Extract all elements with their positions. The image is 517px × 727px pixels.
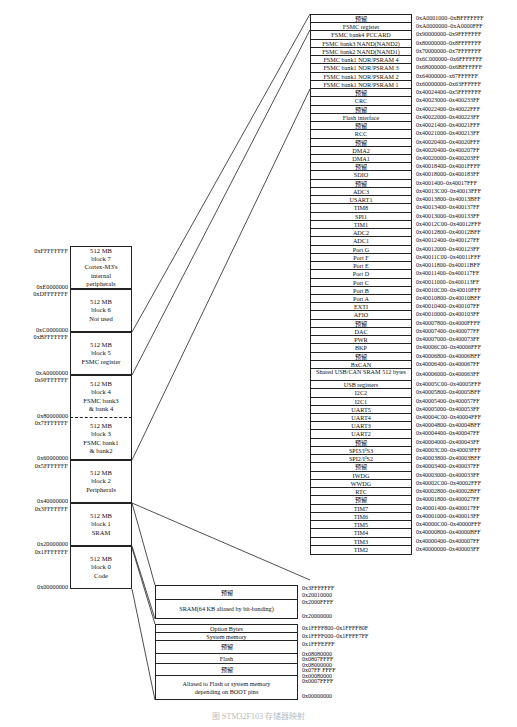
peripheral-address-range: 0x40010400–0x400107FF	[416, 302, 516, 310]
peripheral-map-table: 预留FSMC registerFSMC bank4 PCCARDFSMC ban…	[310, 14, 412, 555]
block5-size: 512 MB	[90, 341, 112, 348]
peripheral-address-range: 0x90000000–0x9FFFFFFF	[416, 30, 516, 38]
peripheral-row: EXTI	[311, 303, 411, 311]
peripheral-address-range: 0x70000000–0x7FFFFFFF	[416, 47, 516, 55]
peripheral-address-range: 0x40012400–0x400127FF	[416, 236, 516, 244]
peripheral-address-range: 0x68000000–0x6BFFFFFF	[416, 63, 516, 71]
block0-top-address: 0x1FFFFFFF	[0, 548, 68, 555]
block5-top-address: 0xBFFFFFFF	[0, 333, 68, 340]
peripheral-address-range: 0x40011800–0x40011BFF	[416, 261, 516, 269]
peripheral-address-range: 0x40001800–0x400027FF	[416, 495, 516, 503]
peripheral-address-range: 0x40024400–0x5FFFFFFF	[416, 88, 516, 96]
code-addr-2: 0x1FFFEFFF	[302, 641, 335, 648]
block3-desc2: & bank2	[90, 447, 113, 454]
peripheral-row: FSMC bank4 PCCARD	[311, 31, 411, 39]
peripheral-address-range: 0x40007800–0x4000FFFF	[416, 319, 516, 327]
block5-desc: FSMC register	[81, 358, 120, 365]
code-aliased-boot: Aliased to Flash or system memory depend…	[156, 676, 297, 699]
block4-bottom-address: 0x80000000	[0, 412, 68, 419]
peripheral-row: UART2	[311, 430, 411, 438]
peripheral-row: TIM6	[311, 513, 411, 521]
block6-label: block 6	[91, 306, 111, 313]
block3-desc: FSMC bank1	[83, 439, 118, 446]
sram-aliased: SRAM(64 KB aliased by bit-banding)	[156, 600, 297, 618]
peripheral-row: Port G	[311, 246, 411, 254]
peripheral-row: FSMC bank2 NAND(NAND1)	[311, 48, 411, 56]
peripheral-row: UART5	[311, 406, 411, 414]
peripheral-address-range: 0x64000000–x67FFFFFF	[416, 72, 516, 80]
peripheral-address-range: 0x40006800–0x40006BFF	[416, 352, 516, 360]
peripheral-address-range: 0x40013C00–0x40013FFF	[416, 187, 516, 195]
peripheral-address-range: 0x40011C00–0x40011FFF	[416, 253, 516, 261]
block4-desc2: & bank 4	[89, 405, 114, 412]
peripheral-address-range: 0x40003C00–0x40003FFF	[416, 446, 516, 454]
block-4: 512 MBblock 4FSMC bank3& bank 4	[70, 375, 132, 418]
peripheral-address-range: 0x40000C00–0x40000FFF	[416, 520, 516, 528]
peripheral-address-range: 0xA0000000–0xA0000FFF	[416, 22, 516, 30]
peripheral-address-range: 0x40004800–0x40004BFF	[416, 421, 516, 429]
peripheral-row: DAC	[311, 328, 411, 336]
peripheral-address-range: 0x40006000–0x400063FF	[416, 368, 516, 380]
peripheral-address-range: 0x40001000–0x400013FF	[416, 512, 516, 520]
block2-desc: Peripherals	[86, 486, 116, 493]
peripheral-address-range: 0x60000000–0x63FFFFFF	[416, 80, 516, 88]
peripheral-address-range: 0x40007400–0x400077FF	[416, 327, 516, 335]
sram-addr-1: 0x20010000	[302, 592, 332, 599]
block-6: 512 MBblock 6Not used	[70, 289, 132, 332]
block1-bottom-address: 0x20000000	[0, 540, 68, 547]
peripheral-address-range: 0x40022000–0x400223FF	[416, 113, 516, 121]
peripheral-row: BxCAN	[311, 361, 411, 369]
peripheral-row: 预留	[311, 89, 411, 97]
peripheral-address-range: 0x40003800–0x40003BFF	[416, 454, 516, 462]
peripheral-row: 预留	[311, 163, 411, 171]
block-7: 512 MBblock 7Cortex-M3'sinternalperipher…	[70, 246, 132, 289]
block7-desc3: peripherals	[86, 280, 115, 287]
peripheral-row: 预留	[311, 463, 411, 471]
sram-addr-2: 0x2000FFFF	[302, 599, 333, 606]
peripheral-row: SPI2/I²S2	[311, 455, 411, 463]
peripheral-address-range: 0x40003400–0x400037FF	[416, 462, 516, 470]
peripheral-row: SDIO	[311, 171, 411, 179]
peripheral-address-range: 0x40002C00–0x40002FFF	[416, 479, 516, 487]
block7-size: 512 MB	[90, 247, 112, 254]
block3-top-address: 0x7FFFFFFF	[0, 419, 68, 426]
block6-top-address: 0xDFFFFFFF	[0, 290, 68, 297]
peripheral-row: Port F	[311, 254, 411, 262]
peripheral-row: AFIO	[311, 311, 411, 319]
code-addr-0: 0x1FFFF800–0x1FFFF80F	[302, 625, 368, 632]
peripheral-row: TIM1	[311, 221, 411, 229]
code-addr-1: 0x1FFFF000–0x1FFFF7FF	[302, 633, 368, 640]
peripheral-row: FSMC bank1 NOR/PSRAM 1	[311, 81, 411, 89]
peripheral-row: Flash interface	[311, 114, 411, 122]
code-flash: Flash	[156, 654, 297, 664]
peripheral-row: TIM8	[311, 204, 411, 212]
peripheral-row: IWDG	[311, 472, 411, 480]
peripheral-row: Port D	[311, 270, 411, 278]
peripheral-row: Port A	[311, 295, 411, 303]
block-2: 512 MBblock 2Peripherals	[70, 460, 132, 503]
peripheral-row: TIM5	[311, 521, 411, 529]
peripheral-address-range: 0x40013400–0x400137FF	[416, 203, 516, 211]
peripheral-row: DMA1	[311, 155, 411, 163]
sram-addr-3: 0x20000000	[302, 613, 332, 620]
block7-bottom-address: 0xE0000000	[0, 283, 68, 290]
peripheral-address-range: 0x40013800–0x40013BFF	[416, 195, 516, 203]
peripheral-address-range: 0x40000400–0x400007FF	[416, 537, 516, 545]
peripheral-row: TIM4	[311, 529, 411, 537]
sram-detail-box: 预留 SRAM(64 KB aliased by bit-banding)	[155, 585, 298, 619]
block0-desc: Code	[94, 572, 108, 579]
block7-label: block 7	[91, 255, 111, 262]
block1-label: block 1	[91, 520, 111, 527]
peripheral-address-range: 0x40005400–0x400057FF	[416, 397, 516, 405]
peripheral-row: I2C2	[311, 389, 411, 397]
peripheral-row: Shared USB/CAN SRAM 512 bytes	[311, 369, 411, 381]
peripheral-address-range: 0x40010800–0x40010BFF	[416, 294, 516, 302]
peripheral-row: ADC1	[311, 237, 411, 245]
peripheral-row: PWR	[311, 336, 411, 344]
peripheral-row: 预留	[311, 180, 411, 188]
peripheral-address-range: 0x40011000–0x400113FF	[416, 278, 516, 286]
code-reserved-1: 预留	[156, 641, 297, 654]
block0-bottom-address: 0x00000000	[0, 583, 68, 590]
peripheral-address-range: 0x40005800–0x40005BFF	[416, 388, 516, 396]
sram-reserved: 预留	[156, 586, 297, 600]
